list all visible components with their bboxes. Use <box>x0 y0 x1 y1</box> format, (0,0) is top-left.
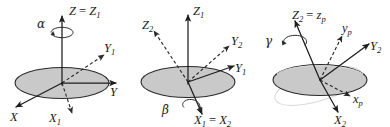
label-axis-z: Z = Z1 <box>69 4 100 20</box>
panel-second-rotation-beta: Z2 Z1 Y2 Y1 β X1 = X2 <box>128 0 256 127</box>
label-axis-y2: Y2 <box>231 34 243 50</box>
label-axis-xp: xp <box>352 92 363 108</box>
label-axis-yp: yp <box>340 21 352 37</box>
label-alpha: α <box>37 17 45 31</box>
label-axis-x2: X2 <box>333 113 347 127</box>
label-axis-x: X <box>9 110 19 124</box>
label-axis-y: Y <box>110 85 119 99</box>
label-axis-x1: X1 <box>48 111 61 127</box>
label-axis-y1: Y1 <box>104 41 115 57</box>
label-axis-z1: Z1 <box>193 4 204 20</box>
label-gamma: γ <box>265 34 273 48</box>
label-axis-y2: Y2 <box>370 39 382 55</box>
euler-angles-figure: α Z = Z1 Y1 Y X X1 Z2 <box>0 0 390 127</box>
panel-first-rotation-alpha: α Z = Z1 Y1 Y X X1 <box>0 0 128 127</box>
label-beta: β <box>161 103 169 117</box>
label-axis-x1-x2: X1 = X2 <box>193 113 232 127</box>
panel-third-rotation-gamma: γ Z2 = zp yp Y2 xp X2 <box>256 0 390 127</box>
label-axis-z2: Z2 <box>142 18 154 34</box>
label-axis-z2-zp: Z2 = zp <box>292 8 326 24</box>
label-axis-y1: Y1 <box>235 61 246 77</box>
